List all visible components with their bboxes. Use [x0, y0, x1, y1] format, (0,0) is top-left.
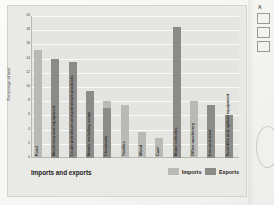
side-panel-box-2 — [257, 27, 270, 38]
y-tick-label: 8 — [28, 99, 30, 103]
bar-group: Machinery and equipment — [48, 16, 65, 158]
y-tick-label: 20 — [26, 14, 30, 18]
y-tick-label: 12 — [26, 71, 30, 75]
y-tick-label: 10 — [26, 85, 30, 89]
side-panel-box-3 — [257, 41, 270, 52]
side-panel-oval-shape — [256, 126, 274, 168]
bar-series-container: FoodMachinery and equipmentCrude petrole… — [31, 16, 239, 158]
category-label: Machinery and equipment — [52, 105, 56, 156]
category-label: Motor vehicles — [174, 127, 178, 156]
y-axis-tick-labels: 02468101214161820 — [18, 16, 30, 158]
bar-group: Office machinery — [187, 16, 204, 158]
bar-group: Metals including scrap — [83, 16, 100, 158]
category-label: Office machinery — [191, 123, 195, 156]
category-label: Metals including scrap — [87, 112, 91, 156]
y-tick-label: 18 — [26, 28, 30, 32]
y-tick-label: 16 — [26, 43, 30, 47]
plot-area: FoodMachinery and equipmentCrude petrole… — [31, 16, 239, 158]
y-tick-label: 0 — [28, 156, 30, 160]
bar-chart-figure: Percentage of total 02468101214161820 Fo… — [7, 5, 247, 197]
category-label: Iron and steel — [208, 129, 212, 156]
bar-group: Motor vehicles — [170, 16, 187, 158]
legend-label-exports: Exports — [219, 169, 239, 175]
chart-legend: Imports Exports — [168, 168, 239, 175]
legend-swatch-exports — [205, 168, 216, 175]
bar-group: Iron and steel — [204, 16, 221, 158]
y-tick-label: 4 — [28, 128, 30, 132]
y-tick-label: 14 — [26, 57, 30, 61]
legend-item-imports: Imports — [168, 168, 201, 175]
bar-group: Crude petroleum and petroleum products — [66, 16, 83, 158]
y-tick-label: 6 — [28, 114, 30, 118]
category-label: Chemicals — [104, 136, 108, 157]
bar-group: Food — [31, 16, 48, 158]
bar-group: Textiles — [118, 16, 135, 158]
category-label: Crude petroleum and petroleum products — [70, 75, 74, 156]
bar-group: Wood — [135, 16, 152, 158]
legend-item-exports: Exports — [205, 168, 239, 175]
chart-title: Imports and exports — [31, 169, 91, 176]
chart-footer: Imports and exports Imports Exports — [31, 166, 239, 182]
scan-edge-shadow — [248, 0, 255, 205]
legend-label-imports: Imports — [182, 169, 202, 175]
category-label: Wood — [139, 145, 143, 156]
side-panel-box-1 — [257, 13, 270, 24]
y-tick-label: 2 — [28, 142, 30, 146]
bar-imports — [34, 50, 42, 158]
bar-group: Coal — [152, 16, 169, 158]
category-label: Textiles — [122, 141, 126, 156]
y-axis-label: Percentage of total — [7, 68, 11, 101]
category-label: Scientific and optical equipment — [226, 93, 230, 156]
bar-group: Chemicals — [100, 16, 117, 158]
category-label: Coal — [156, 147, 160, 156]
side-panel-marker: A — [258, 4, 262, 10]
legend-swatch-imports — [168, 168, 179, 175]
scanned-page-background: Percentage of total 02468101214161820 Fo… — [0, 0, 274, 205]
category-label: Food — [35, 146, 39, 156]
side-panel-cropped: A — [255, 0, 274, 205]
bar-group: Scientific and optical equipment — [222, 16, 239, 158]
